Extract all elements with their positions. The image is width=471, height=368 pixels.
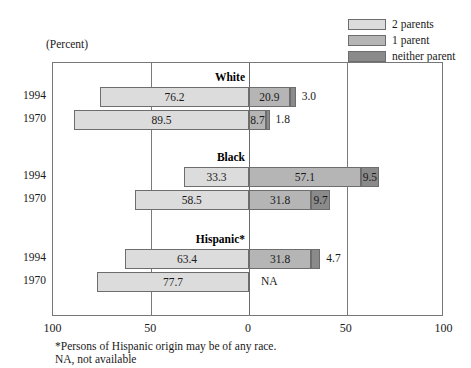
footnote-na: NA, not available bbox=[55, 353, 276, 366]
bar-segment-neither-parent: 9.7 bbox=[311, 190, 330, 210]
legend-label-2-parents: 2 parents bbox=[392, 18, 434, 30]
bar-segment-one-parent: 57.1 bbox=[249, 167, 361, 187]
bar-segment-neither-parent bbox=[311, 249, 320, 269]
bar-segment-two-parents: 58.5 bbox=[135, 190, 249, 210]
row-label-year: 1970 bbox=[12, 113, 46, 125]
row-label-year: 1970 bbox=[12, 193, 46, 205]
tick-label-0: 100 bbox=[44, 322, 62, 334]
tick-label-3: 50 bbox=[340, 322, 352, 334]
bar-segment-one-parent: 8.7 bbox=[249, 110, 266, 130]
chart-page: 2 parents 1 parent neither parent (Perce… bbox=[0, 0, 471, 368]
group-heading-hispanic: Hispanic* bbox=[196, 233, 245, 245]
bar-segment-neither-parent: 9.5 bbox=[361, 167, 380, 187]
chart-legend: 2 parents 1 parent neither parent bbox=[348, 17, 468, 65]
bar-segment-neither-parent bbox=[266, 110, 270, 130]
legend-item-neither-parent: neither parent bbox=[348, 49, 468, 63]
row-label-year: 1994 bbox=[12, 170, 46, 182]
bar-value-label-neither-parent: 1.8 bbox=[276, 114, 290, 126]
legend-item-1-parent: 1 parent bbox=[348, 33, 468, 47]
bar-segment-two-parents: 89.5 bbox=[74, 110, 249, 130]
bar-segment-two-parents: 63.4 bbox=[125, 249, 249, 269]
legend-swatch-neither-parent bbox=[348, 51, 386, 62]
footnote-hispanic: *Persons of Hispanic origin may be of an… bbox=[55, 340, 276, 353]
legend-swatch-1-parent bbox=[348, 35, 386, 46]
row-label-year: 1994 bbox=[12, 90, 46, 102]
bar-segment-one-parent: 31.8 bbox=[249, 249, 311, 269]
bar-segment-one-parent: 31.8 bbox=[249, 190, 311, 210]
bar-segment-two-parents: 33.3 bbox=[184, 167, 249, 187]
tick-label-1: 50 bbox=[144, 322, 156, 334]
plot-area: White76.220.93.089.58.71.8Black33.357.19… bbox=[52, 62, 443, 316]
legend-label-1-parent: 1 parent bbox=[392, 34, 429, 46]
group-heading-black: Black bbox=[217, 151, 245, 163]
group-heading-white: White bbox=[215, 71, 245, 83]
bar-value-label-neither-parent: 3.0 bbox=[302, 91, 316, 103]
bar-segment-two-parents: 77.7 bbox=[97, 272, 249, 292]
legend-swatch-2-parents bbox=[348, 19, 386, 30]
legend-item-2-parents: 2 parents bbox=[348, 17, 468, 31]
footnotes: *Persons of Hispanic origin may be of an… bbox=[55, 340, 276, 366]
bar-segment-neither-parent bbox=[290, 87, 296, 107]
percent-caption: (Percent) bbox=[46, 38, 88, 50]
tick-label-4: 100 bbox=[435, 322, 453, 334]
tick-label-2: 0 bbox=[245, 322, 251, 334]
legend-label-neither-parent: neither parent bbox=[392, 50, 456, 62]
na-label: NA bbox=[261, 276, 278, 288]
bar-segment-two-parents: 76.2 bbox=[100, 87, 249, 107]
row-label-year: 1970 bbox=[12, 275, 46, 287]
gridline-plus50 bbox=[347, 63, 348, 315]
bar-segment-one-parent: 20.9 bbox=[249, 87, 290, 107]
row-label-year: 1994 bbox=[12, 252, 46, 264]
bar-value-label-neither-parent: 4.7 bbox=[326, 253, 340, 265]
